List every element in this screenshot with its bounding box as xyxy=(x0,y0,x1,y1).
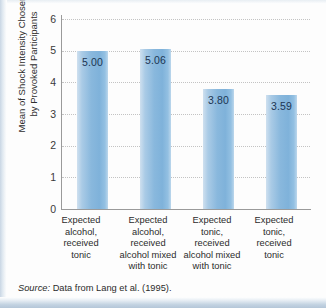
x-tick-label-0-line-2: received xyxy=(63,238,98,248)
x-tick-label-3-line-0: Expected xyxy=(255,215,294,225)
scan-edge-bottom xyxy=(0,297,326,308)
bar-1[interactable]: 5.06 xyxy=(140,49,171,209)
y-axis-title-line-1: Mean of Shock Intensity Chosen xyxy=(16,0,27,132)
figure-container: Mean of Shock Intensity Chosen by Provok… xyxy=(0,0,326,308)
scan-edge-left xyxy=(0,0,7,308)
x-tick-label-2: Expected tonic, received alcohol mixed w… xyxy=(177,215,247,273)
x-tick-label-0: Expected alcohol, received tonic xyxy=(55,215,107,261)
x-tick-label-3: Expected tonic, received tonic xyxy=(248,215,300,261)
y-tick-label-5: 5 xyxy=(38,45,56,56)
x-tick-label-3-line-2: received xyxy=(256,238,291,248)
x-tick-label-3-line-1: tonic, xyxy=(263,227,285,237)
y-tick-label-1: 1 xyxy=(38,172,56,183)
source-prefix: Source: xyxy=(18,283,50,293)
y-tick-label-3: 3 xyxy=(38,109,56,120)
x-tick-label-2-line-0: Expected xyxy=(193,215,232,225)
x-tick-label-2-line-1: tonic, xyxy=(201,227,223,237)
bar-2[interactable]: 3.80 xyxy=(203,89,234,209)
bar-value-label-1: 5.06 xyxy=(140,54,171,66)
x-tick-label-0-line-1: alcohol, xyxy=(65,227,97,237)
x-tick-label-1-line-1: alcohol, xyxy=(132,227,164,237)
bar-3[interactable]: 3.59 xyxy=(266,95,297,209)
x-tick-label-2-line-3: alcohol mixed xyxy=(184,250,241,260)
y-tick-label-2: 2 xyxy=(38,140,56,151)
x-tick-label-1-line-2: received xyxy=(130,238,165,248)
x-tick-label-1-line-0: Expected xyxy=(129,215,168,225)
gridline-6 xyxy=(62,19,310,20)
x-axis-baseline xyxy=(61,209,311,210)
bar-value-label-2: 3.80 xyxy=(203,94,234,106)
source-text: Data from Lang et al. (1995). xyxy=(53,283,172,293)
x-tick-label-0-line-0: Expected xyxy=(62,215,101,225)
x-tick-label-2-line-2: received xyxy=(194,238,229,248)
y-tick-label-6: 6 xyxy=(38,14,56,25)
y-tick-label-0: 0 xyxy=(38,204,56,215)
source-note: Source: Data from Lang et al. (1995). xyxy=(18,283,172,293)
x-tick-label-0-line-3: tonic xyxy=(71,250,91,260)
x-tick-label-3-line-3: tonic xyxy=(264,250,284,260)
scan-edge-top xyxy=(0,0,326,4)
y-axis-title-line-2: by Provoked Participants xyxy=(28,11,39,116)
x-tick-label-2-line-4: with tonic xyxy=(193,261,232,271)
plot-area: 5.00 5.06 3.80 3.59 xyxy=(62,19,310,209)
y-axis-title: Mean of Shock Intensity Chosen by Provok… xyxy=(16,0,40,154)
bar-value-label-0: 5.00 xyxy=(77,56,108,68)
bar-0[interactable]: 5.00 xyxy=(77,51,108,209)
x-tick-label-1: Expected alcohol, received alcohol mixed… xyxy=(113,215,183,273)
bar-value-label-3: 3.59 xyxy=(266,100,297,112)
x-tick-label-1-line-4: with tonic xyxy=(129,261,168,271)
y-tick-label-4: 4 xyxy=(38,77,56,88)
x-tick-label-1-line-3: alcohol mixed xyxy=(120,250,177,260)
